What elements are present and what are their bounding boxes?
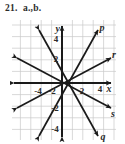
- y-tick-4: 4: [54, 34, 59, 44]
- line-label-r: r: [112, 49, 116, 60]
- y-tick-2: 2: [54, 54, 59, 64]
- y-tick-neg4: -4: [51, 124, 59, 134]
- y-axis-label: y: [55, 23, 61, 34]
- exercise-parts: a.,b.: [23, 3, 41, 13]
- x-tick-neg2: -2: [48, 86, 56, 96]
- figure-panel: 21. a.,b.: [0, 0, 125, 144]
- line-label-s: s: [110, 108, 115, 119]
- coordinate-grid-figure: -4 -2 2 4 4 2 -2 -4 y x p r s q: [10, 18, 118, 142]
- x-axis-label: x: [106, 83, 112, 94]
- exercise-header: 21. a.,b.: [5, 3, 41, 13]
- y-tick-neg2: -2: [51, 103, 59, 113]
- x-tick-2: 2: [80, 86, 85, 96]
- exercise-number: 21.: [5, 3, 17, 13]
- line-label-q: q: [101, 131, 106, 142]
- x-tick-4: 4: [98, 84, 103, 94]
- line-label-p: p: [99, 22, 105, 33]
- x-tick-neg4: -4: [34, 86, 42, 96]
